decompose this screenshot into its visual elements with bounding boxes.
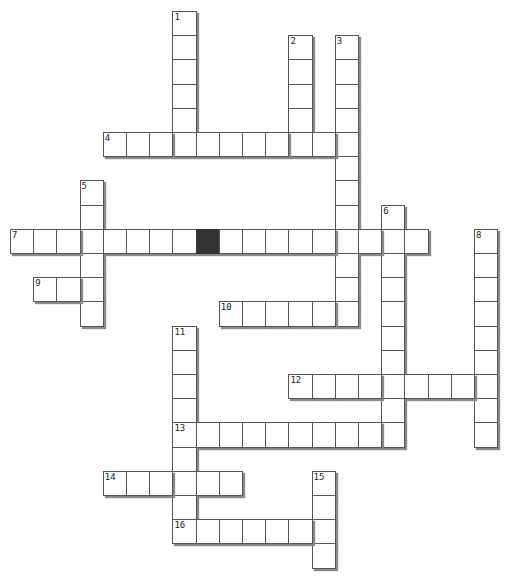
cell-letter-input[interactable] — [336, 157, 358, 180]
crossword-cell[interactable] — [80, 277, 104, 302]
cell-letter-input[interactable] — [382, 302, 404, 325]
crossword-cell[interactable]: 2 — [288, 35, 312, 60]
cell-letter-input[interactable] — [220, 133, 242, 156]
cell-letter-input[interactable] — [336, 206, 358, 229]
crossword-cell[interactable] — [288, 519, 312, 544]
cell-letter-input[interactable] — [197, 472, 219, 495]
crossword-cell[interactable]: 6 — [381, 205, 405, 230]
cell-letter-input[interactable] — [336, 302, 358, 325]
crossword-cell[interactable]: 16 — [172, 519, 196, 544]
cell-letter-input[interactable] — [289, 85, 311, 108]
crossword-cell[interactable] — [56, 229, 80, 254]
crossword-cell[interactable] — [265, 132, 289, 157]
cell-letter-input[interactable] — [336, 230, 358, 253]
crossword-cell[interactable] — [335, 59, 359, 84]
crossword-cell[interactable] — [335, 277, 359, 302]
crossword-cell[interactable] — [312, 229, 336, 254]
crossword-cell[interactable] — [196, 422, 220, 447]
crossword-cell[interactable]: 12 — [288, 374, 312, 399]
crossword-cell[interactable]: 13 — [172, 422, 196, 447]
cell-letter-input[interactable] — [220, 520, 242, 543]
cell-letter-input[interactable] — [173, 60, 195, 83]
cell-letter-input[interactable] — [336, 60, 358, 83]
cell-letter-input[interactable] — [81, 181, 103, 204]
crossword-cell[interactable] — [149, 471, 173, 496]
crossword-cell[interactable] — [474, 326, 498, 351]
cell-letter-input[interactable] — [382, 399, 404, 422]
crossword-cell[interactable] — [381, 301, 405, 326]
cell-letter-input[interactable] — [336, 109, 358, 132]
crossword-cell[interactable]: 8 — [474, 229, 498, 254]
crossword-cell[interactable] — [80, 229, 104, 254]
cell-letter-input[interactable] — [266, 302, 288, 325]
crossword-cell[interactable]: 14 — [103, 471, 127, 496]
crossword-cell[interactable] — [335, 229, 359, 254]
cell-letter-input[interactable] — [313, 133, 335, 156]
cell-letter-input[interactable] — [81, 302, 103, 325]
crossword-cell[interactable] — [381, 229, 405, 254]
cell-letter-input[interactable] — [81, 230, 103, 253]
crossword-cell[interactable] — [312, 422, 336, 447]
cell-letter-input[interactable] — [336, 278, 358, 301]
crossword-cell[interactable] — [196, 519, 220, 544]
cell-letter-input[interactable] — [57, 278, 79, 301]
crossword-cell[interactable] — [404, 374, 428, 399]
cell-letter-input[interactable] — [475, 351, 497, 374]
crossword-cell[interactable] — [474, 422, 498, 447]
crossword-cell[interactable] — [172, 59, 196, 84]
cell-letter-input[interactable] — [313, 423, 335, 446]
crossword-cell[interactable] — [312, 543, 336, 568]
crossword-cell[interactable] — [265, 519, 289, 544]
crossword-cell[interactable] — [265, 301, 289, 326]
cell-letter-input[interactable] — [336, 254, 358, 277]
crossword-cell[interactable] — [428, 374, 452, 399]
crossword-cell[interactable] — [312, 495, 336, 520]
cell-letter-input[interactable] — [313, 496, 335, 519]
crossword-cell[interactable] — [335, 156, 359, 181]
crossword-cell[interactable]: 10 — [219, 301, 243, 326]
crossword-cell[interactable] — [219, 519, 243, 544]
crossword-cell[interactable] — [474, 350, 498, 375]
crossword-cell[interactable] — [288, 132, 312, 157]
cell-letter-input[interactable] — [289, 60, 311, 83]
cell-letter-input[interactable] — [173, 133, 195, 156]
crossword-cell[interactable] — [288, 301, 312, 326]
cell-letter-input[interactable] — [220, 230, 242, 253]
cell-letter-input[interactable] — [34, 278, 56, 301]
cell-letter-input[interactable] — [173, 351, 195, 374]
crossword-cell[interactable] — [172, 35, 196, 60]
cell-letter-input[interactable] — [313, 520, 335, 543]
crossword-cell[interactable] — [265, 422, 289, 447]
crossword-cell[interactable] — [242, 519, 266, 544]
crossword-cell[interactable] — [335, 422, 359, 447]
crossword-cell[interactable] — [172, 374, 196, 399]
cell-letter-input[interactable] — [243, 302, 265, 325]
cell-letter-input[interactable] — [289, 375, 311, 398]
cell-letter-input[interactable] — [104, 472, 126, 495]
crossword-cell[interactable] — [80, 253, 104, 278]
cell-letter-input[interactable] — [150, 472, 172, 495]
crossword-cell[interactable] — [219, 471, 243, 496]
crossword-cell[interactable] — [381, 326, 405, 351]
cell-letter-input[interactable] — [220, 472, 242, 495]
crossword-cell[interactable] — [312, 519, 336, 544]
crossword-cell[interactable] — [288, 59, 312, 84]
cell-letter-input[interactable] — [127, 133, 149, 156]
crossword-cell[interactable] — [149, 229, 173, 254]
cell-letter-input[interactable] — [405, 375, 427, 398]
cell-letter-input[interactable] — [266, 230, 288, 253]
cell-letter-input[interactable] — [382, 351, 404, 374]
crossword-cell[interactable] — [335, 180, 359, 205]
cell-letter-input[interactable] — [475, 302, 497, 325]
crossword-cell[interactable]: 15 — [312, 471, 336, 496]
cell-letter-input[interactable] — [382, 375, 404, 398]
crossword-cell[interactable] — [312, 301, 336, 326]
crossword-cell[interactable] — [335, 301, 359, 326]
crossword-cell[interactable] — [381, 398, 405, 423]
cell-letter-input[interactable] — [313, 230, 335, 253]
cell-letter-input[interactable] — [266, 133, 288, 156]
crossword-cell[interactable] — [265, 229, 289, 254]
cell-letter-input[interactable] — [173, 375, 195, 398]
cell-letter-input[interactable] — [313, 472, 335, 495]
crossword-cell[interactable]: 3 — [335, 35, 359, 60]
